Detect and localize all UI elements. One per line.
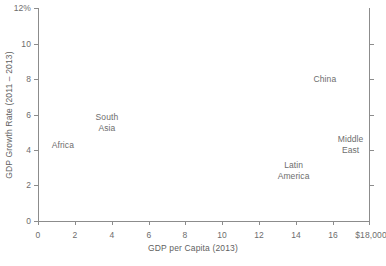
y-tick-right-8 xyxy=(370,79,374,80)
y-tick-8 xyxy=(34,79,38,80)
x-tick-label-10: 10 xyxy=(217,230,227,240)
x-tick-label-2: 2 xyxy=(73,230,78,240)
y-tick-4 xyxy=(34,150,38,151)
data-point-south-asia: SouthAsia xyxy=(96,112,119,134)
x-axis-line xyxy=(38,221,370,222)
y-tick-10 xyxy=(34,44,38,45)
data-label-line: Latin xyxy=(278,160,310,171)
x-tick-label-4: 4 xyxy=(110,230,115,240)
data-point-middle-east: MiddleEast xyxy=(338,134,364,156)
data-label-line: East xyxy=(338,145,364,156)
x-tick-2 xyxy=(75,221,76,225)
data-point-latin-america: LatinAmerica xyxy=(278,160,310,182)
y-tick-right-10 xyxy=(370,44,374,45)
data-point-china: China xyxy=(314,74,337,85)
data-label-line: South xyxy=(96,112,119,123)
data-label-line: Asia xyxy=(96,123,119,134)
y-tick-right-4 xyxy=(370,150,374,151)
data-label-line: Africa xyxy=(52,139,74,150)
y-tick-6 xyxy=(34,115,38,116)
x-tick-12 xyxy=(259,221,260,225)
y-tick-right-2 xyxy=(370,185,374,186)
chart-figure: 0 2 4 6 8 10 12% 0 2 4 6 8 10 12 14 16 $… xyxy=(0,0,386,266)
y-tick-right-6 xyxy=(370,115,374,116)
plot-area: 0 2 4 6 8 10 12% 0 2 4 6 8 10 12 14 16 $… xyxy=(38,8,370,222)
data-point-africa: Africa xyxy=(52,139,74,150)
y-axis-line-left xyxy=(38,8,39,222)
x-tick-label-18: $18,000 xyxy=(355,230,386,240)
x-tick-10 xyxy=(222,221,223,225)
x-tick-label-8: 8 xyxy=(183,230,188,240)
x-tick-label-16: 16 xyxy=(328,230,338,240)
x-tick-0 xyxy=(38,221,39,225)
x-tick-6 xyxy=(149,221,150,225)
y-tick-2 xyxy=(34,185,38,186)
data-label-line: China xyxy=(314,74,337,85)
y-axis-title: GDP Growth Rate (2011 – 2013) xyxy=(4,8,16,222)
x-tick-label-0: 0 xyxy=(36,230,41,240)
data-label-line: America xyxy=(278,171,310,182)
x-tick-14 xyxy=(296,221,297,225)
x-tick-16 xyxy=(333,221,334,225)
y-tick-12 xyxy=(34,8,38,9)
x-tick-label-14: 14 xyxy=(291,230,301,240)
x-axis-title: GDP per Capita (2013) xyxy=(0,243,386,253)
x-tick-18 xyxy=(369,221,370,225)
data-label-line: Middle xyxy=(338,134,364,145)
x-tick-8 xyxy=(185,221,186,225)
x-tick-label-6: 6 xyxy=(147,230,152,240)
x-tick-label-12: 12 xyxy=(254,230,264,240)
x-tick-4 xyxy=(112,221,113,225)
